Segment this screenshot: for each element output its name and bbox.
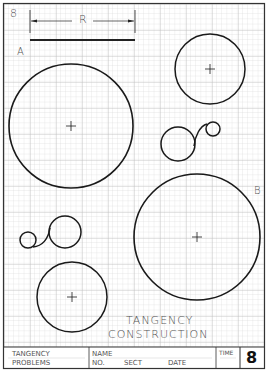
sect-label: SECT (124, 359, 142, 367)
subject-line-2: PROBLEMS (12, 359, 50, 367)
no-label: NO. (92, 359, 105, 367)
sheet-number: 8 (246, 349, 257, 367)
radius-label: R (79, 13, 87, 26)
title-line-1: TANGENCY (126, 314, 194, 327)
date-label: DATE (168, 359, 186, 367)
drawing-sheet: 8 R A B TANGENCY CONSTRUCTION TANGENCY P… (0, 0, 268, 373)
subject-line-1: TANGENCY (12, 350, 50, 358)
name-label: NAME (92, 350, 113, 358)
label-a: A (17, 46, 24, 57)
grid-background (4, 4, 264, 347)
label-b: B (254, 185, 261, 196)
time-label: TIME (219, 349, 233, 357)
sheet-number-top: 8 (10, 7, 17, 20)
title-line-2: CONSTRUCTION (108, 328, 209, 341)
